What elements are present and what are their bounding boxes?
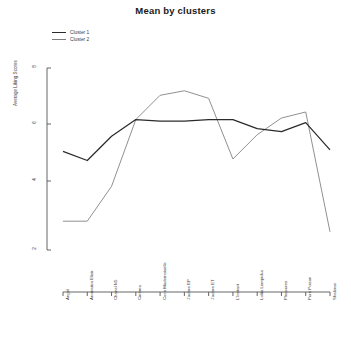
x-tick-label: Chanel N5: [113, 280, 118, 300]
x-tick-label: J'adore ET: [210, 279, 215, 300]
x-tick-label: Aromatics Elixir: [89, 270, 94, 300]
y-tick-label: 6: [32, 117, 37, 129]
plot-area: [0, 0, 351, 358]
y-axis-title: Average Liking Scores: [13, 6, 18, 106]
x-tick-label: Shalimar: [332, 283, 337, 300]
legend-item-cluster-2: Cluster 2: [52, 36, 89, 43]
x-tick-label: Pleasures: [283, 281, 288, 300]
legend-label: Cluster 2: [70, 36, 89, 43]
x-axis-ticks: [63, 292, 330, 296]
x-tick-label: Cinéma: [137, 285, 142, 300]
y-axis: [47, 68, 51, 250]
y-tick-label: 4: [32, 174, 37, 186]
x-tick-label: Pure Poison: [307, 277, 312, 300]
x-tick-label: J'adore EP: [186, 279, 191, 300]
legend-label: Cluster 1: [70, 29, 89, 36]
x-tick-label: Coco Mademoiselle: [162, 262, 167, 300]
chart-figure: Mean by clusters Cluster 1 Cluster 2 Ave…: [0, 0, 351, 358]
chart-title: Mean by clusters: [0, 5, 351, 16]
y-tick-label: 2: [32, 243, 37, 255]
x-tick-label: Lolita Lempicka: [259, 270, 264, 300]
y-tick-label: 8: [32, 61, 37, 73]
legend-line-swatch-icon: [52, 32, 66, 33]
line-series-cluster-1: [63, 120, 330, 161]
x-tick-label: Angel: [65, 289, 70, 300]
legend-item-cluster-1: Cluster 1: [52, 29, 89, 36]
series-lines: [63, 91, 330, 232]
legend-line-swatch-icon: [52, 39, 66, 40]
chart-legend: Cluster 1 Cluster 2: [52, 29, 89, 43]
x-tick-label: L'Instant: [235, 284, 240, 300]
line-series-cluster-2: [63, 91, 330, 232]
